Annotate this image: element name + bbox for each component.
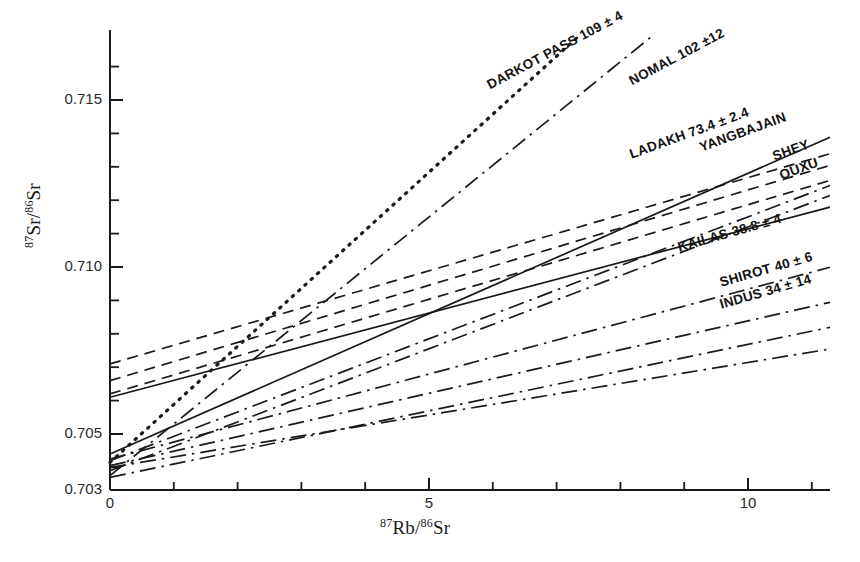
x-tick-label-10: 10 [734, 494, 762, 511]
isochron-line-indus [110, 302, 830, 465]
y-tick-label-0-710: 0.710 [28, 257, 102, 274]
isochron-line-ladakh-upper [110, 154, 830, 364]
y-tick-label-0-703: 0.703 [28, 480, 102, 497]
isochron-line-aux-a [110, 327, 830, 477]
plot-axes [110, 30, 830, 490]
y-axis-label: 87Sr/86Sr [22, 183, 45, 248]
x-tick-label-5: 5 [415, 494, 443, 511]
x-tick-label-0: 0 [96, 494, 124, 511]
y-tick-label-0-715: 0.715 [28, 90, 102, 107]
isochron-figure: 87Sr/86Sr 87Rb/86Sr 0.7150.7100.7050.703… [0, 0, 860, 562]
isochron-line-nomal [110, 36, 652, 476]
isochron-line-darkot pass [110, 36, 579, 463]
isochron-lines [110, 36, 830, 478]
y-tick-label-0-705: 0.705 [28, 424, 102, 441]
isochron-line-aux-b [110, 349, 830, 467]
x-axis-label: 87Rb/86Sr [380, 516, 450, 539]
